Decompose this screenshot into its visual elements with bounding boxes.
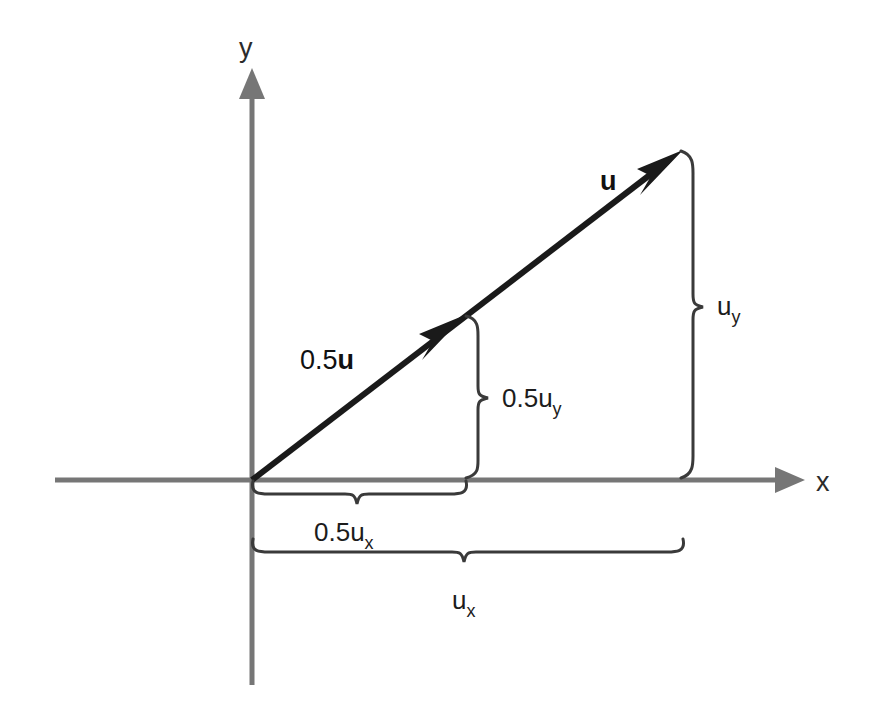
brace-u-y-label-prefix: u — [717, 291, 731, 321]
brace-u-x-label: ux — [452, 585, 475, 621]
brace-u-y-label-sub: y — [731, 307, 740, 327]
vector-u-shaft — [252, 161, 668, 480]
vector-half-u-label: 0.5u — [300, 345, 354, 375]
brace-half-u-y — [466, 316, 488, 478]
brace-u-y-label: uy — [717, 291, 740, 327]
vector-diagram-figure: x y u — [0, 0, 873, 725]
vector-half-u-group — [419, 315, 465, 360]
brace-u-x-label-sub: x — [466, 601, 475, 621]
vector-u-label: u — [600, 166, 617, 196]
brace-half-u-x-label-sub: x — [365, 533, 374, 553]
brace-u-y — [681, 151, 703, 478]
brace-half-u-x-label: 0.5ux — [314, 517, 374, 553]
vector-half-u-arrowhead — [419, 315, 465, 360]
vector-half-u-label-prefix: 0.5 — [300, 345, 338, 375]
y-axis-arrowhead — [239, 68, 265, 99]
brace-u-x-label-prefix: u — [452, 585, 466, 615]
x-axis-label: x — [816, 467, 830, 497]
vector-u-arrowhead — [637, 150, 683, 195]
brace-half-u-y-label: 0.5uy — [502, 383, 562, 419]
brace-half-u-y-label-prefix: 0.5u — [502, 383, 553, 413]
x-axis-arrowhead — [775, 467, 805, 493]
brace-half-u-x — [252, 481, 466, 504]
vector-half-u-label-vector: u — [338, 345, 355, 375]
brace-half-u-y-label-sub: y — [553, 399, 562, 419]
brace-half-u-x-label-prefix: 0.5u — [314, 517, 365, 547]
y-axis-label: y — [239, 33, 253, 63]
